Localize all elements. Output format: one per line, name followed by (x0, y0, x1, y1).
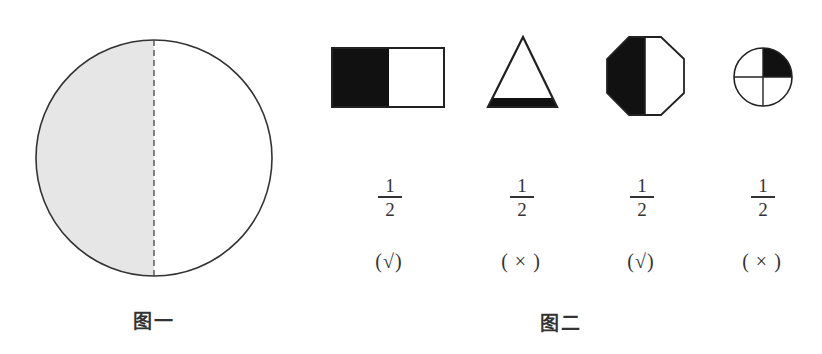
figure2-quartered-circle (734, 48, 792, 106)
figure1-shaded-half (36, 40, 154, 276)
rectangle-shaded-half (332, 48, 389, 107)
figure2-caption: 图二 (540, 308, 582, 335)
fraction-triangle: 1 2 (502, 176, 542, 219)
fraction-numerator: 1 (743, 176, 783, 196)
judgement-triangle: ( × ) (491, 250, 551, 273)
fraction-denominator: 2 (502, 198, 542, 219)
fraction-denominator: 2 (743, 198, 783, 219)
fraction-numerator: 1 (502, 176, 542, 196)
octagon-shaded-half (607, 37, 645, 115)
fraction-denominator: 2 (370, 198, 410, 219)
figure2-triangle (488, 37, 557, 107)
fraction-numerator: 1 (622, 176, 662, 196)
fraction-numerator: 1 (370, 176, 410, 196)
diagram-canvas (0, 0, 822, 354)
figure2-octagon (607, 37, 684, 115)
triangle-shaded-strip (488, 98, 557, 107)
fraction-rectangle: 1 2 (370, 176, 410, 219)
judgement-octagon: (√) (611, 250, 671, 273)
figure1-caption: 图一 (133, 306, 175, 333)
judgement-rectangle: (√) (359, 250, 419, 273)
figure2-rectangle (332, 48, 444, 107)
fraction-octagon: 1 2 (622, 176, 662, 219)
figure1-circle (36, 40, 272, 276)
fraction-denominator: 2 (622, 198, 662, 219)
triangle-outline (488, 37, 557, 107)
judgement-quartered-circle: ( × ) (732, 250, 792, 273)
fraction-quartered-circle: 1 2 (743, 176, 783, 219)
